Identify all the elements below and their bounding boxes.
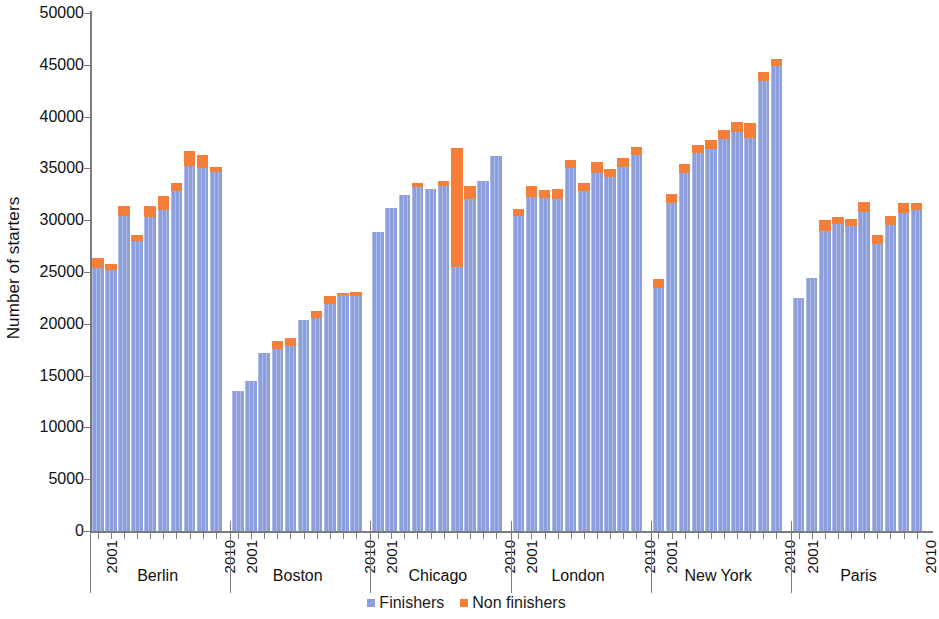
bar-slot[interactable] (898, 13, 911, 531)
bar-segment-nonfinishers (911, 203, 923, 210)
bar-slot[interactable] (477, 13, 490, 531)
bar-slot[interactable] (565, 13, 578, 531)
bar-slot[interactable] (758, 13, 771, 531)
bar-segment-nonfinishers (197, 155, 209, 168)
bar-segment-nonfinishers (337, 293, 349, 295)
bar-slot[interactable] (911, 13, 924, 531)
bar-slot[interactable] (653, 13, 666, 531)
bar-segment-finishers (372, 232, 384, 531)
bar-slot[interactable] (464, 13, 477, 531)
bar-slot[interactable] (578, 13, 591, 531)
bar-slot[interactable] (679, 13, 692, 531)
bar-slot[interactable] (666, 13, 679, 531)
x-axis-tick-mark (864, 533, 865, 539)
bar-group-new-york (653, 13, 784, 531)
bar-slot[interactable] (438, 13, 451, 531)
bar-slot[interactable] (372, 13, 385, 531)
bar-slot[interactable] (131, 13, 144, 531)
bar-segment-nonfinishers (832, 217, 844, 224)
x-axis-tick-mark (277, 533, 278, 539)
bar-segment-finishers (858, 212, 870, 531)
bar-segment-finishers (565, 168, 577, 531)
bar-slot[interactable] (539, 13, 552, 531)
x-axis-tick-mark (404, 533, 405, 539)
bar-slot[interactable] (245, 13, 258, 531)
bar-slot[interactable] (210, 13, 223, 531)
bar-slot[interactable] (819, 13, 832, 531)
bar-slot[interactable] (718, 13, 731, 531)
bar-segment-nonfinishers (692, 145, 704, 153)
bar-slot[interactable] (144, 13, 157, 531)
x-axis-tick-mark (356, 533, 357, 539)
bar-slot[interactable] (771, 13, 784, 531)
x-axis-tick-mark (264, 533, 265, 539)
bar-slot[interactable] (526, 13, 539, 531)
x-axis-tick-mark (750, 533, 751, 539)
y-axis-tick-mark (84, 117, 91, 118)
x-axis-group-separator (230, 521, 231, 593)
bar-slot[interactable] (705, 13, 718, 531)
bar-slot[interactable] (92, 13, 105, 531)
x-axis-tick-mark (545, 533, 546, 539)
x-axis-group-separator (370, 521, 371, 593)
bar-segment-nonfinishers (898, 203, 910, 213)
bar-segment-finishers (258, 353, 270, 531)
bar-slot[interactable] (272, 13, 285, 531)
bar-slot[interactable] (311, 13, 324, 531)
y-axis-tick-label: 30000 (40, 211, 85, 229)
bar-slot[interactable] (513, 13, 526, 531)
bar-slot[interactable] (337, 13, 350, 531)
bar-segment-finishers (92, 268, 104, 531)
bar-slot[interactable] (399, 13, 412, 531)
bar-slot[interactable] (552, 13, 565, 531)
bar-slot[interactable] (385, 13, 398, 531)
bar-segment-finishers (617, 167, 629, 531)
bar-slot[interactable] (744, 13, 757, 531)
bar-slot[interactable] (858, 13, 871, 531)
x-axis-group-label: New York (653, 567, 784, 585)
bar-segment-finishers (105, 270, 117, 531)
bar-slot[interactable] (793, 13, 806, 531)
bar-slot[interactable] (490, 13, 503, 531)
x-axis-group-label: Chicago (372, 567, 503, 585)
bar-slot[interactable] (692, 13, 705, 531)
bar-slot[interactable] (171, 13, 184, 531)
bar-slot[interactable] (832, 13, 845, 531)
bar-segment-finishers (653, 288, 665, 531)
bar-segment-nonfinishers (118, 206, 130, 216)
bar-slot[interactable] (591, 13, 604, 531)
bar-slot[interactable] (350, 13, 363, 531)
bar-segment-nonfinishers (105, 264, 117, 270)
bar-segment-nonfinishers (578, 183, 590, 191)
bar-slot[interactable] (285, 13, 298, 531)
bar-slot[interactable] (631, 13, 644, 531)
bar-slot[interactable] (158, 13, 171, 531)
bar-slot[interactable] (232, 13, 245, 531)
bar-slot[interactable] (731, 13, 744, 531)
bar-slot[interactable] (425, 13, 438, 531)
bar-segment-nonfinishers (631, 147, 643, 155)
y-axis-tick-label: 40000 (40, 108, 85, 126)
bar-slot[interactable] (105, 13, 118, 531)
bar-slot[interactable] (617, 13, 630, 531)
bar-slot[interactable] (118, 13, 131, 531)
bar-slot[interactable] (298, 13, 311, 531)
bar-segment-nonfinishers (131, 235, 143, 241)
x-axis-tick-mark (190, 533, 191, 539)
bar-slot[interactable] (184, 13, 197, 531)
bar-slot[interactable] (451, 13, 464, 531)
bar-slot[interactable] (872, 13, 885, 531)
bar-slot[interactable] (412, 13, 425, 531)
bar-slot[interactable] (845, 13, 858, 531)
bar-slot[interactable] (258, 13, 271, 531)
bar-slot[interactable] (885, 13, 898, 531)
y-axis-tick-mark (84, 65, 91, 66)
bar-segment-finishers (425, 189, 437, 531)
bar-slot[interactable] (324, 13, 337, 531)
x-axis-tick-mark (251, 533, 252, 539)
bar-slot[interactable] (604, 13, 617, 531)
x-axis-tick-mark (698, 533, 699, 539)
bar-slot[interactable] (197, 13, 210, 531)
x-axis-tick-mark (776, 533, 777, 539)
bar-slot[interactable] (806, 13, 819, 531)
